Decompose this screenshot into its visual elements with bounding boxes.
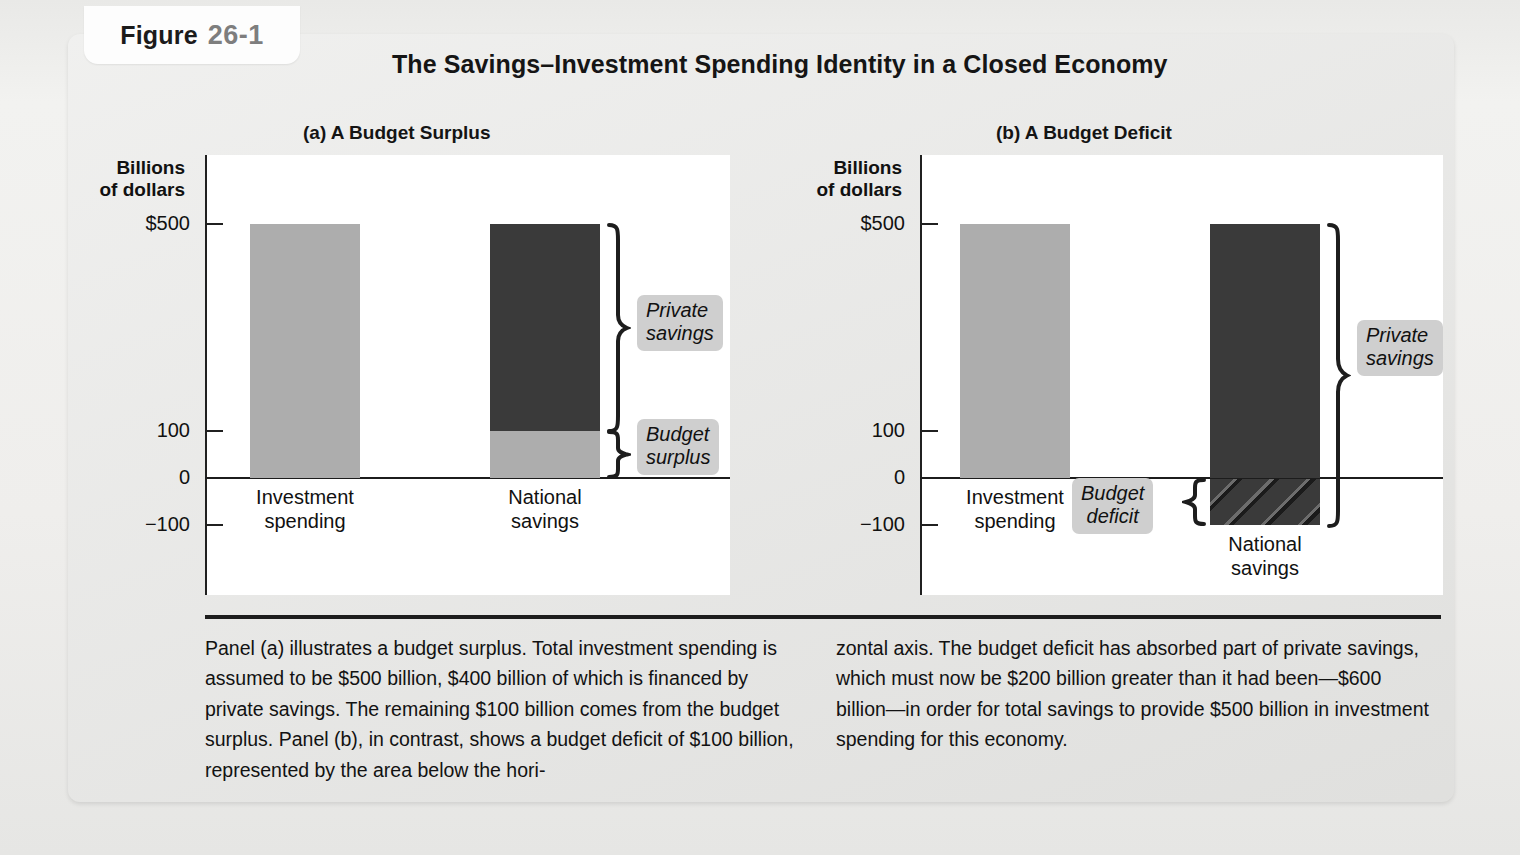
panel-b-chart: Private savings Budget deficit Investmen… <box>920 155 1443 595</box>
panel-b-ticklabel-500: $500 <box>775 212 905 235</box>
panel-b-bar-investment-spending <box>960 224 1070 478</box>
panel-b-label-investment-spending: Investment spending <box>935 486 1095 533</box>
bar-label-line-1: National <box>465 486 625 510</box>
panel-a-tag-private-savings: Private savings <box>637 295 723 351</box>
tag-line-2: savings <box>646 322 714 345</box>
panel-a-bar-investment-spending <box>250 224 360 478</box>
figure-number-tab: Figure 26-1 <box>84 6 300 64</box>
caption-left-column: Panel (a) illustrates a budget surplus. … <box>205 633 805 785</box>
panel-b-ticklabel-neg100: −100 <box>775 513 905 536</box>
panel-a-label-national-savings: National savings <box>465 486 625 533</box>
panel-b-tick-500 <box>922 223 938 225</box>
figure-number: 26-1 <box>208 20 264 51</box>
panel-a-ticklabel-neg100: −100 <box>60 513 190 536</box>
panel-b-tick-100 <box>922 430 938 432</box>
panel-a-tag-budget-surplus: Budget surplus <box>637 419 719 475</box>
panel-a-bar-budget-surplus <box>490 431 600 478</box>
panel-a-axis-title: Billions of dollars <box>0 157 185 201</box>
caption-divider <box>205 615 1441 619</box>
panel-a-bar-private-savings <box>490 224 600 431</box>
panel-b-heading: (b) A Budget Deficit <box>996 122 1172 144</box>
figure-label-word: Figure <box>120 21 198 50</box>
panel-a-label-investment-spending: Investment spending <box>225 486 385 533</box>
tag-line-1: Private <box>646 299 714 322</box>
panel-a-brace-private-savings <box>605 222 631 434</box>
tag-line-2: savings <box>1366 347 1434 370</box>
panel-b-bar-private-savings <box>1210 224 1320 478</box>
figure-title: The Savings–Investment Spending Identity… <box>392 50 1168 79</box>
panel-a-ticklabel-0: 0 <box>60 466 190 489</box>
bar-label-line-1: Investment <box>225 486 385 510</box>
panel-b-brace-private-savings <box>1325 222 1351 529</box>
panel-b-ticklabel-100: 100 <box>775 419 905 442</box>
panel-b-ticklabel-0: 0 <box>775 466 905 489</box>
caption-right-column: zontal axis. The budget deficit has abso… <box>836 633 1436 755</box>
bar-label-line-2: spending <box>225 510 385 534</box>
panel-a-tick-neg100 <box>207 524 223 526</box>
axis-title-line-2: of dollars <box>0 179 185 201</box>
axis-title-line-1: Billions <box>717 157 902 179</box>
panel-a-y-axis <box>205 155 207 595</box>
panel-a-tick-100 <box>207 430 223 432</box>
axis-title-line-1: Billions <box>0 157 185 179</box>
figure-page: Figure 26-1 The Savings–Investment Spend… <box>0 0 1520 855</box>
bar-label-line-1: National <box>1185 533 1345 557</box>
panel-b-y-axis <box>920 155 922 595</box>
bar-label-line-2: spending <box>935 510 1095 534</box>
panel-a-heading: (a) A Budget Surplus <box>303 122 491 144</box>
panel-b-label-national-savings: National savings <box>1185 533 1345 580</box>
panel-a-chart: Private savings Budget surplus Investmen… <box>205 155 730 595</box>
panel-a-brace-budget-surplus <box>605 429 631 480</box>
panel-b-brace-budget-deficit <box>1182 477 1208 527</box>
panel-a-tick-500 <box>207 223 223 225</box>
panel-b-tag-private-savings: Private savings <box>1357 320 1443 376</box>
tag-line-2: surplus <box>646 446 710 469</box>
panel-b-axis-title: Billions of dollars <box>717 157 902 201</box>
bar-label-line-2: savings <box>1185 557 1345 581</box>
panel-a-ticklabel-100: 100 <box>60 419 190 442</box>
panel-b-bar-budget-deficit <box>1210 479 1320 525</box>
tag-line-1: Private <box>1366 324 1434 347</box>
bar-label-line-1: Investment <box>935 486 1095 510</box>
axis-title-line-2: of dollars <box>717 179 902 201</box>
bar-label-line-2: savings <box>465 510 625 534</box>
tag-line-1: Budget <box>646 423 710 446</box>
panel-a-ticklabel-500: $500 <box>60 212 190 235</box>
